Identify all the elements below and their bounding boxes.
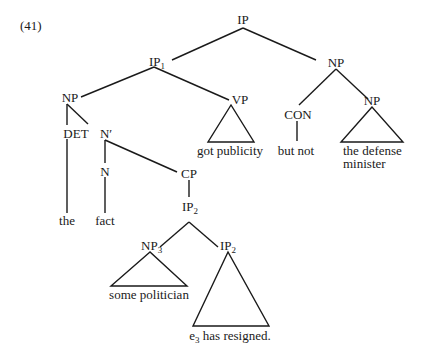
- node-con: CON: [284, 107, 312, 122]
- leaf-got-publicity: got publicity: [197, 143, 264, 158]
- node-np3: NP3: [141, 238, 163, 255]
- leaf-but-not: but not: [278, 143, 315, 158]
- node-vp: VP: [232, 92, 249, 107]
- node-ip2-upper: IP2: [182, 199, 198, 216]
- edge-ip2-ip2: [189, 222, 218, 247]
- leaf-defense-line2: minister: [343, 156, 386, 171]
- node-n: N: [100, 164, 110, 179]
- node-ip-root: IP: [237, 12, 249, 27]
- edge-np-nbar: [67, 104, 88, 124]
- edge-np-con: [299, 69, 336, 105]
- leaf-some-politician: some politician: [109, 287, 189, 302]
- leaf-the: the: [59, 213, 75, 228]
- node-ip1: IP1: [149, 54, 165, 71]
- node-np-minister: NP: [364, 93, 381, 108]
- edge-ip-np: [243, 28, 316, 60]
- edge-ip1-vp: [154, 67, 229, 100]
- edge-ip-ip1: [172, 28, 243, 60]
- triangle-vp: [208, 105, 254, 142]
- syntax-tree: (41) IP IP1: [0, 0, 421, 356]
- node-np-right: NP: [328, 55, 345, 70]
- node-cp: CP: [181, 166, 197, 181]
- triangle-np-minister: [341, 107, 403, 142]
- triangle-ip2-lower: [193, 252, 269, 326]
- example-number: (41): [20, 18, 42, 33]
- triangle-np3: [111, 252, 187, 286]
- node-ip2-lower: IP2: [220, 238, 236, 255]
- edge-nbar-cp: [105, 140, 177, 172]
- node-det: DET: [63, 126, 88, 141]
- node-nbar: N′: [100, 126, 112, 141]
- edge-ip2-np3: [160, 222, 189, 247]
- leaf-fact: fact: [95, 213, 115, 228]
- edge-ip1-np: [81, 67, 154, 97]
- leaf-e3-has-resigned: e3 has resigned.: [189, 328, 270, 345]
- node-np-subject: NP: [62, 90, 79, 105]
